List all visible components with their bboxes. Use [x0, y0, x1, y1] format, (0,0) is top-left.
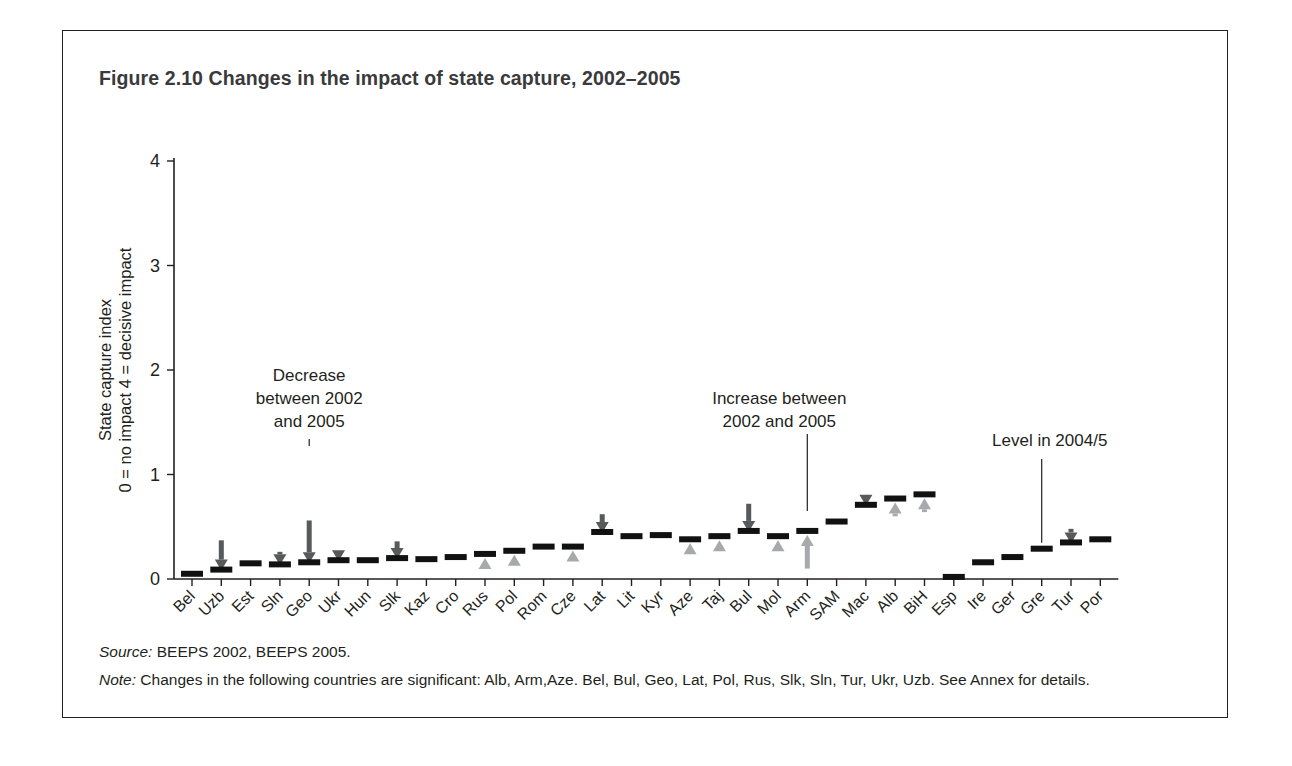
x-axis-tick-label: Geo: [282, 587, 315, 620]
x-axis-tick-label: Sln: [258, 587, 286, 615]
arrow-head: [479, 558, 492, 569]
arrow-shaft: [395, 541, 400, 548]
note-line: Note: Changes in the following countries…: [99, 671, 1090, 689]
level-bar-Lit: [621, 533, 643, 539]
level-bar-Hun: [357, 557, 379, 563]
note-label: Note:: [99, 671, 136, 688]
annotation-line: and 2005: [274, 412, 345, 431]
increase-arrow-Alb: [889, 503, 902, 517]
arrow-head: [713, 540, 726, 551]
x-axis-tick-label: Cze: [547, 587, 579, 619]
level-bar-Cze: [562, 544, 584, 550]
x-axis-tick-label: Taj: [699, 587, 725, 613]
level-bar-Alb: [884, 496, 906, 502]
x-axis-tick-label: Tur: [1049, 587, 1078, 616]
level-bar-Rom: [533, 544, 555, 550]
x-axis-tick-label: Kyr: [638, 587, 667, 616]
x-axis-tick-label: Ger: [988, 587, 1019, 618]
note-text: Changes in the following countries are s…: [136, 671, 1090, 688]
level-bar-Est: [240, 560, 262, 566]
arrow-shaft: [219, 540, 224, 559]
figure-frame: Figure 2.10 Changes in the impact of sta…: [62, 30, 1228, 718]
level-bar-Kyr: [650, 532, 672, 538]
source-text: BEEPS 2002, BEEPS 2005.: [152, 643, 350, 660]
x-axis-tick-label: Cro: [432, 587, 462, 617]
arrow-head: [566, 551, 579, 562]
x-axis-tick-label: Aze: [665, 587, 697, 619]
arrow-head: [772, 540, 785, 551]
decrease-annotation: Decreasebetween 2002and 2005: [256, 366, 363, 446]
level-bar-SAM: [826, 519, 848, 525]
y-axis-tick-label: 2: [150, 360, 160, 380]
decrease-arrow-Bul: [742, 504, 755, 532]
y-axis-title-line1: State capture index: [96, 298, 114, 441]
level-annotation: Level in 2004/5: [992, 431, 1107, 543]
level-bar-Kaz: [415, 556, 437, 562]
y-axis-tick-label: 3: [150, 256, 160, 276]
level-bar-Taj: [708, 533, 730, 539]
x-axis-tick-label: Rus: [459, 587, 491, 619]
level-bar-Por: [1089, 536, 1111, 542]
x-axis-tick-label: Est: [228, 587, 257, 616]
x-axis-tick-label: Ukr: [315, 587, 345, 617]
y-axis-title-line2: 0 = no impact 4 = decisive impact: [116, 247, 134, 492]
x-axis-tick-label: Lit: [614, 587, 638, 611]
level-bar-Lat: [591, 529, 613, 535]
level-bar-Uzb: [210, 567, 232, 573]
arrow-head: [918, 498, 931, 509]
x-axis-tick-label: BiH: [900, 587, 930, 617]
arrow-shaft: [746, 504, 751, 521]
arrow-shaft: [1069, 529, 1074, 533]
increase-arrow-Pol: [508, 555, 521, 566]
x-axis-tick-label: Ire: [964, 587, 989, 612]
state-capture-chart: 01234State capture index0 = no impact 4 …: [63, 31, 1229, 719]
x-axis-tick-label: SAM: [806, 587, 843, 624]
source-label: Source:: [99, 643, 152, 660]
y-axis-tick-label: 4: [150, 151, 160, 171]
arrow-shaft: [805, 546, 810, 569]
x-axis-tick-label: Por: [1077, 587, 1107, 617]
decrease-arrow-Geo: [303, 520, 316, 563]
x-axis-tick-label: Esp: [928, 587, 960, 619]
increase-arrow-BiH: [918, 498, 931, 512]
arrow-head: [684, 543, 697, 554]
level-bar-Ire: [972, 559, 994, 565]
level-bar-Tur: [1060, 539, 1082, 545]
x-axis-tick-label: Uzb: [195, 587, 227, 619]
level-bar-Sln: [269, 561, 291, 567]
annotation-line: Level in 2004/5: [992, 431, 1107, 450]
x-axis-tick-label: Bul: [726, 587, 754, 615]
level-bar-Rus: [474, 551, 496, 557]
arrow-head: [801, 535, 814, 546]
x-axis-tick-label: Kaz: [401, 587, 433, 619]
x-axis-tick-label: Mol: [754, 587, 784, 617]
level-bar-Mac: [855, 502, 877, 508]
level-bar-Bul: [738, 528, 760, 534]
annotation-line: Decrease: [273, 366, 346, 385]
increase-arrow-Rus: [479, 558, 492, 569]
increase-arrow-Arm: [801, 535, 814, 569]
level-bar-Gre: [1031, 546, 1053, 552]
annotation-line: Increase between: [712, 389, 846, 408]
y-axis-tick-label: 0: [150, 569, 160, 589]
arrow-head: [508, 555, 521, 566]
increase-arrow-Aze: [684, 543, 697, 554]
y-axis-tick-label: 1: [150, 465, 160, 485]
arrow-shaft: [307, 520, 312, 552]
arrow-shaft: [893, 514, 898, 517]
increase-annotation: Increase between2002 and 2005: [712, 389, 846, 511]
x-axis-tick-label: Mac: [839, 587, 872, 620]
x-axis-tick-label: Bel: [170, 587, 198, 615]
level-bar-Esp: [943, 574, 965, 580]
level-bar-Arm: [796, 528, 818, 534]
x-axis-tick-label: Alb: [873, 587, 901, 615]
level-bar-Bel: [181, 571, 203, 577]
increase-arrow-Cze: [566, 551, 579, 562]
level-bar-Ukr: [328, 557, 350, 563]
increase-arrow-Taj: [713, 540, 726, 551]
annotation-line: 2002 and 2005: [723, 412, 836, 431]
chart-plot-area: 01234State capture index0 = no impact 4 …: [63, 31, 1229, 719]
x-axis-tick-label: Slk: [375, 586, 403, 614]
arrow-shaft: [922, 509, 927, 512]
source-note: Source: BEEPS 2002, BEEPS 2005.: [99, 643, 351, 661]
